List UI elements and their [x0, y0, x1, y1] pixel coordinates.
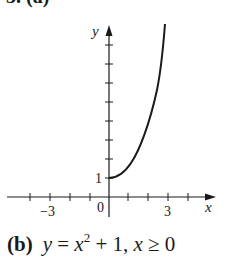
x-axis-label: x — [204, 199, 212, 215]
x-tick-label-neg3: −3 — [40, 204, 55, 219]
y-axis-label: y — [90, 23, 99, 39]
x-tick-label-3: 3 — [164, 204, 171, 219]
y-tick-label-1: 1 — [95, 171, 102, 186]
caption-tag: (b) — [7, 232, 33, 256]
origin-label: 0 — [97, 200, 104, 215]
function-curve — [109, 24, 165, 178]
y-axis-arrow-icon — [106, 25, 113, 36]
figure-caption: (b)y = x2 + 1, x ≥ 0 — [7, 232, 175, 257]
caption-equation: y = x2 + 1, x ≥ 0 — [43, 232, 176, 256]
function-plot: y x 1 0 −3 3 — [0, 0, 232, 260]
